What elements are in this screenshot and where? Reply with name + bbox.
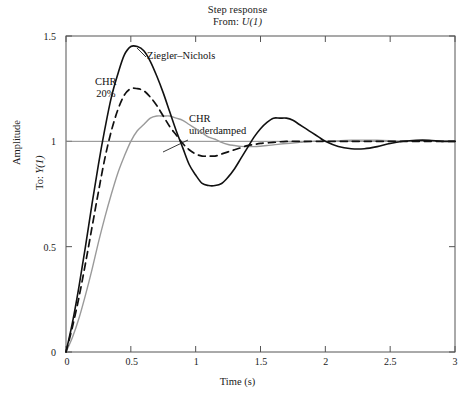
plot-frame [66, 36, 455, 352]
series-line-ziegler-nichols [66, 46, 455, 352]
plot-canvas [0, 0, 475, 398]
step-response-figure: Step response From: U(1) Amplitude To: Y… [0, 0, 475, 398]
axis-ticks [66, 36, 455, 352]
annotation-leader-lines [137, 48, 188, 152]
series-curves [66, 46, 455, 352]
axes-frame [66, 36, 455, 352]
series-line-chr-underdamped [66, 116, 455, 352]
